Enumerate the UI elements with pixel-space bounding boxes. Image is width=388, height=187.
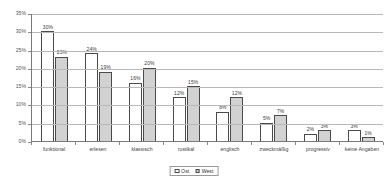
x-axis-label-5: zweckmäßig — [252, 146, 296, 152]
y-tick-label: 0% — [0, 139, 26, 144]
gridline — [32, 105, 383, 106]
legend-label: Ost — [181, 169, 189, 174]
y-tick-mark — [28, 142, 31, 143]
bar-value-label: 5% — [263, 116, 270, 121]
legend-item-west[interactable]: West — [195, 169, 213, 174]
x-axis-category-labels: funktionalerlesenklassischrustikalenglis… — [32, 146, 384, 152]
y-tick-label: 5% — [0, 121, 26, 126]
x-tick-mark — [207, 142, 208, 145]
y-tick-mark — [28, 124, 31, 125]
legend-swatch-icon — [175, 169, 180, 174]
x-tick-mark — [119, 142, 120, 145]
x-tick-mark — [295, 142, 296, 145]
y-tick-label: 30% — [0, 30, 26, 35]
y-tick-label: 15% — [0, 85, 26, 90]
gridline — [32, 87, 383, 88]
bar-west-5: 7% — [274, 115, 287, 141]
bar-ost-4: 8% — [216, 112, 229, 141]
y-axis-tick-labels: 0%5%10%15%20%25%30%35% — [0, 14, 26, 142]
bar-value-label: 12% — [232, 91, 242, 96]
x-tick-mark — [339, 142, 340, 145]
bar-west-3: 15% — [187, 86, 200, 141]
bar-ost-6: 2% — [304, 134, 317, 141]
x-axis-label-6: progressiv — [296, 146, 340, 152]
bar-value-label: 30% — [43, 25, 53, 30]
x-tick-mark — [251, 142, 252, 145]
bar-chart: 0%5%10%15%20%25%30%35% 30%23%24%19%16%20… — [0, 0, 388, 187]
gridline — [32, 51, 383, 52]
x-axis-label-7: keine Angaben — [340, 146, 384, 152]
x-tick-mark — [31, 142, 32, 145]
bar-ost-5: 5% — [260, 123, 273, 141]
x-tick-mark — [163, 142, 164, 145]
x-tick-mark — [75, 142, 76, 145]
gridline — [32, 32, 383, 33]
bar-ost-2: 16% — [129, 83, 142, 142]
bar-west-6: 3% — [318, 130, 331, 141]
y-tick-label: 20% — [0, 66, 26, 71]
legend-swatch-icon — [195, 169, 200, 174]
y-tick-mark — [28, 69, 31, 70]
gridline — [32, 69, 383, 70]
bar-value-label: 2% — [307, 127, 314, 132]
bar-ost-7: 3% — [348, 130, 361, 141]
bar-value-label: 7% — [277, 109, 284, 114]
y-tick-mark — [28, 51, 31, 52]
bar-west-4: 12% — [230, 97, 243, 141]
y-tick-mark — [28, 105, 31, 106]
y-tick-mark — [28, 87, 31, 88]
bar-west-7: 1% — [362, 137, 375, 141]
bar-west-2: 20% — [143, 68, 156, 141]
chart-legend: OstWest — [170, 166, 219, 176]
bar-value-label: 16% — [130, 76, 140, 81]
x-axis-label-3: rustikal — [164, 146, 208, 152]
gridline — [32, 124, 383, 125]
y-tick-label: 25% — [0, 48, 26, 53]
y-tick-mark — [28, 32, 31, 33]
x-axis-label-4: englisch — [208, 146, 252, 152]
gridline — [32, 14, 383, 15]
plot-area: 30%23%24%19%16%20%12%15%8%12%5%7%2%3%3%1… — [31, 14, 383, 142]
bar-ost-1: 24% — [85, 53, 98, 141]
x-axis-label-0: funktional — [32, 146, 76, 152]
x-axis-label-1: erlesen — [76, 146, 120, 152]
y-tick-label: 10% — [0, 103, 26, 108]
bar-value-label: 12% — [174, 91, 184, 96]
bar-value-label: 1% — [365, 131, 372, 136]
y-tick-mark — [28, 14, 31, 15]
y-tick-label: 35% — [0, 11, 26, 16]
x-axis-label-2: klassisch — [120, 146, 164, 152]
bar-value-label: 15% — [188, 80, 198, 85]
plot-wrapper: 0%5%10%15%20%25%30%35% 30%23%24%19%16%20… — [0, 0, 388, 150]
bar-value-label: 20% — [144, 61, 154, 66]
legend-label: West — [202, 169, 214, 174]
x-tick-mark — [383, 142, 384, 145]
legend-item-ost[interactable]: Ost — [175, 169, 190, 174]
bar-ost-3: 12% — [173, 97, 186, 141]
